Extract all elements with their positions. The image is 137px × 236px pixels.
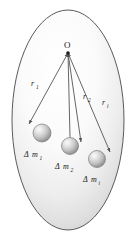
vector-r1-subscript: 1 [36,84,39,90]
mass-1-subscript: 1 [40,155,43,161]
mass-i-symbol: m [91,175,97,184]
mass-sphere-1 [33,124,51,142]
mass-1-delta: Δ [23,150,29,159]
physics-diagram-figure: O r 1 r 2 r i Δ m 1 Δ m 2 Δ [0,0,137,236]
mass-1-symbol: m [32,150,38,159]
diagram-canvas: O r 1 r 2 r i Δ m 1 Δ m 2 Δ [0,0,137,236]
mass-i-delta: Δ [82,175,88,184]
mass-2-delta: Δ [54,162,60,171]
mass-sphere-2 [62,138,79,155]
origin-label: O [64,40,71,50]
mass-2-symbol: m [63,162,69,171]
origin-point-marker [66,51,70,55]
mass-sphere-i [89,151,106,168]
vector-r2-subscript: 2 [88,97,91,103]
mass-2-subscript: 2 [71,167,74,173]
